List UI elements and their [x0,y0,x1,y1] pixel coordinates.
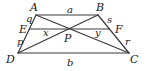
segment-label-y: y [94,27,101,38]
point-label-F: F [114,23,123,36]
segment-label-b: b [67,57,73,68]
segment-label-s: s [107,14,112,25]
segment-label-a: a [67,4,73,15]
vertex-label-B: B [95,1,104,14]
vertex-label-C: C [130,53,139,66]
segment-label-q: q [26,13,32,24]
vertex-label-D: D [5,53,15,66]
trapezoid-diagram: A B C D E F P a b q p s r x y [0,0,146,71]
point-label-P: P [63,32,72,45]
segment-label-x: x [43,27,49,38]
point-label-E: E [18,23,27,36]
segment-label-p: p [17,36,24,47]
segment-label-r: r [125,36,131,47]
